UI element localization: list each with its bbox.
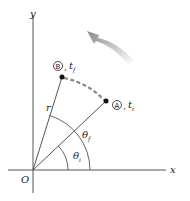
rotation-diagram: y x O r B , t f A , t i θ f θ i xyxy=(0,0,190,201)
point-a-dot xyxy=(104,99,109,104)
origin-label: O xyxy=(21,174,29,185)
svg-text:i: i xyxy=(132,105,134,112)
point-a-marker: A xyxy=(115,102,120,110)
svg-text:i: i xyxy=(79,156,81,163)
point-a-label: A , t i xyxy=(113,99,135,112)
svg-text:f: f xyxy=(87,135,92,143)
x-axis-label: x xyxy=(170,164,176,175)
point-b-label: B , t f xyxy=(54,60,78,74)
y-axis-label: y xyxy=(29,8,36,19)
theta-i-arc xyxy=(58,146,68,170)
point-b-marker: B xyxy=(56,63,61,71)
theta-f-label: θ f xyxy=(82,129,92,143)
svg-text:f: f xyxy=(72,66,77,74)
svg-text:,: , xyxy=(64,62,67,72)
dashed-path xyxy=(64,78,104,100)
svg-text:,: , xyxy=(123,101,126,111)
theta-f-arc xyxy=(50,116,90,171)
point-b-dot xyxy=(60,75,65,80)
counterclockwise-arrow-icon xyxy=(87,31,135,64)
theta-i-label: θ i xyxy=(73,150,81,163)
